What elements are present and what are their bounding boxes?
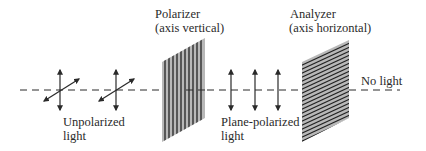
unpolarized-light-label-2: light [63, 129, 86, 143]
plane-polarized-light-label: Plane-polarized [221, 115, 300, 129]
polarizer-label: Polarizer [155, 7, 201, 21]
analyzer-axis-label: (axis horizontal) [289, 21, 371, 35]
polarizer-axis-label: (axis vertical) [155, 21, 224, 35]
plane-polarized-light-label-2: light [221, 129, 244, 143]
polarization-diagram: Polarizer (axis vertical) Analyzer (axis… [0, 0, 426, 151]
analyzer-label: Analyzer [290, 7, 337, 21]
no-light-label: No light [361, 74, 403, 88]
analyzer-filter [300, 40, 352, 142]
polarizer-filter [162, 30, 205, 150]
unpolarized-light-label: Unpolarized [63, 115, 126, 129]
